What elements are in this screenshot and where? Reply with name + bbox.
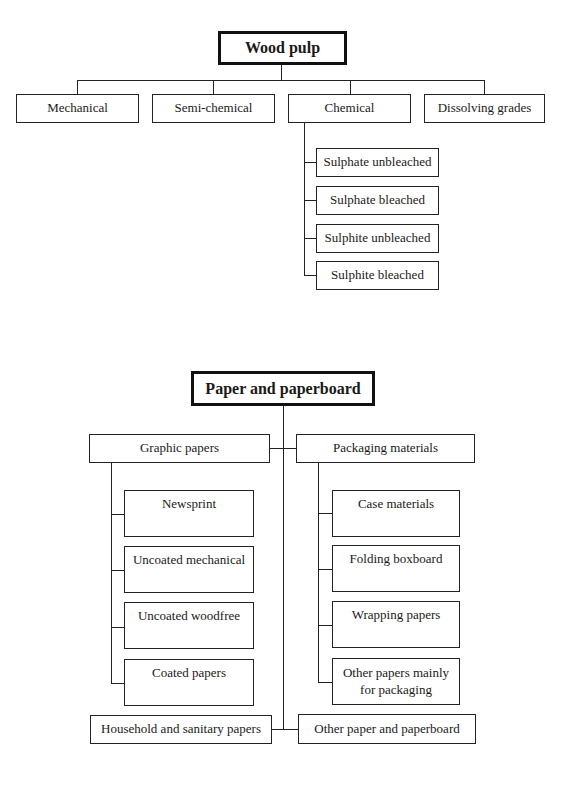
connector (484, 80, 485, 94)
category-semi-chemical: Semi-chemical (152, 94, 275, 123)
subtype-sulphite-bleached: Sulphite bleached (316, 261, 439, 290)
connector (281, 65, 282, 80)
household-sanitary-papers: Household and sanitary papers (90, 715, 272, 744)
paper-root: Paper and paperboard (191, 371, 375, 406)
connector (318, 463, 319, 683)
item-uncoated-mechanical: Uncoated mechanical (124, 546, 254, 593)
connector (77, 80, 485, 81)
connector (318, 682, 332, 683)
item-folding-boxboard: Folding boxboard (332, 545, 460, 592)
category-mechanical: Mechanical (16, 94, 139, 123)
item-case-materials: Case materials (332, 490, 460, 537)
connector (111, 683, 124, 684)
connector (304, 238, 316, 239)
packaging-materials: Packaging materials (296, 434, 475, 463)
item-wrapping-papers: Wrapping papers (332, 601, 460, 648)
connector (213, 80, 214, 94)
subtype-sulphite-unbleached: Sulphite unbleached (316, 224, 439, 253)
category-dissolving-grades: Dissolving grades (424, 94, 545, 123)
connector (304, 275, 316, 276)
other-paper-paperboard: Other paper and paperboard (298, 714, 476, 744)
connector (304, 162, 316, 163)
item-coated-papers: Coated papers (124, 659, 254, 706)
connector (304, 200, 316, 201)
item-other-papers-packaging: Other papers mainly for packaging (332, 658, 460, 705)
subtype-sulphate-unbleached: Sulphate unbleached (316, 148, 439, 177)
item-uncoated-woodfree: Uncoated woodfree (124, 602, 254, 649)
connector (318, 513, 332, 514)
item-newsprint: Newsprint (124, 490, 254, 537)
connector (270, 448, 296, 449)
connector (318, 569, 332, 570)
connector (350, 80, 351, 94)
connector (111, 570, 124, 571)
connector (77, 80, 78, 94)
subtype-sulphate-bleached: Sulphate bleached (316, 186, 439, 215)
connector (272, 729, 298, 730)
connector (111, 627, 124, 628)
connector (111, 463, 112, 684)
category-chemical: Chemical (288, 94, 411, 123)
connector (318, 625, 332, 626)
wood-pulp-root: Wood pulp (218, 31, 347, 65)
connector (283, 406, 284, 729)
graphic-papers: Graphic papers (89, 434, 270, 463)
connector (111, 514, 124, 515)
